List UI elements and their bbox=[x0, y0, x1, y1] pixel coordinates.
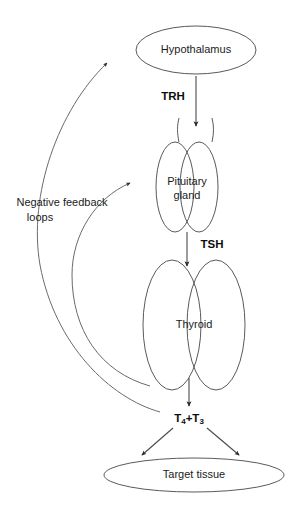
pituitary-stalk-left bbox=[178, 118, 180, 142]
feedback-curve-to-pituitary bbox=[72, 183, 150, 386]
trh-label: TRH bbox=[161, 90, 185, 102]
node-pituitary-gland: Pituitary gland bbox=[156, 142, 218, 232]
negative-feedback-loop-outer bbox=[37, 63, 160, 412]
hormone-to-target-arrow-right bbox=[207, 428, 239, 455]
tsh-label: TSH bbox=[201, 238, 224, 250]
thyroid-axis-diagram: Hypothalamus TRH Pituitary gland TSH bbox=[0, 0, 298, 509]
pituitary-ellipse-left bbox=[156, 142, 194, 232]
target-tissue-label: Target tissue bbox=[163, 468, 225, 480]
pituitary-stalk-right bbox=[212, 118, 214, 142]
negative-feedback-label-group: Negative feedback loops bbox=[16, 196, 108, 223]
t4-t3-label: T4+T3 bbox=[174, 412, 204, 426]
t3-letter: T bbox=[192, 412, 199, 424]
pituitary-ellipse-right bbox=[180, 142, 218, 232]
negative-feedback-loop-inner bbox=[72, 183, 150, 386]
node-thyroid: Thyroid bbox=[143, 260, 245, 390]
tsh-arrow-group: TSH bbox=[187, 232, 224, 266]
node-hypothalamus: Hypothalamus bbox=[136, 26, 256, 74]
pituitary-label-line1: Pituitary bbox=[167, 175, 207, 187]
t4-letter: T bbox=[174, 412, 181, 424]
pituitary-label-line2: gland bbox=[174, 189, 201, 201]
thyroid-hormone-label-group: T4+T3 bbox=[174, 412, 204, 426]
hypothalamus-label: Hypothalamus bbox=[161, 43, 232, 55]
target-tissue-arrows bbox=[142, 428, 239, 455]
t3-subscript: 3 bbox=[199, 417, 204, 426]
feedback-curve-to-hypothalamus bbox=[37, 63, 160, 412]
feedback-label-line1: Negative feedback bbox=[16, 196, 108, 208]
node-target-tissue: Target tissue bbox=[104, 458, 284, 492]
thyroid-label: Thyroid bbox=[176, 318, 213, 330]
diagram-canvas: Hypothalamus TRH Pituitary gland TSH bbox=[0, 0, 298, 509]
hormone-to-target-arrow-left bbox=[142, 428, 173, 455]
feedback-label-line2: loops bbox=[27, 211, 54, 223]
